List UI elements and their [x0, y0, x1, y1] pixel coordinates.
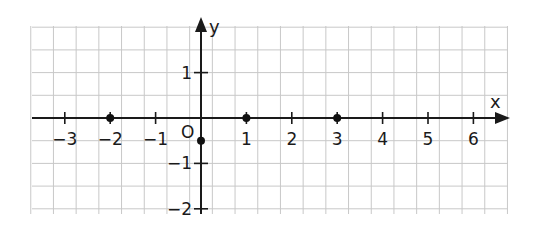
- x-tick-label: 1: [241, 129, 252, 149]
- grid-lines: [31, 26, 508, 214]
- axes: [32, 17, 510, 214]
- x-tick-label: 3: [332, 129, 343, 149]
- y-axis-arrow-icon: [195, 17, 207, 32]
- coordinate-plane: −3−2−11234561−1−2 x y O: [0, 0, 535, 230]
- data-point: [242, 114, 250, 122]
- data-point: [197, 137, 205, 145]
- y-axis-label: y: [209, 16, 220, 37]
- x-axis-label: x: [490, 91, 501, 112]
- y-tick-label: 1: [181, 63, 192, 83]
- x-tick-label: 2: [286, 129, 297, 149]
- data-point: [106, 114, 114, 122]
- x-tick-label: 4: [377, 129, 388, 149]
- x-tick-label: −1: [143, 129, 168, 149]
- x-tick-label: 5: [423, 129, 434, 149]
- x-tick-label: 6: [468, 129, 479, 149]
- y-tick-label: −1: [167, 153, 192, 173]
- x-tick-label: −2: [98, 129, 123, 149]
- origin-label: O: [181, 122, 194, 142]
- data-point: [333, 114, 341, 122]
- x-tick-label: −3: [52, 129, 77, 149]
- y-tick-label: −2: [167, 199, 192, 219]
